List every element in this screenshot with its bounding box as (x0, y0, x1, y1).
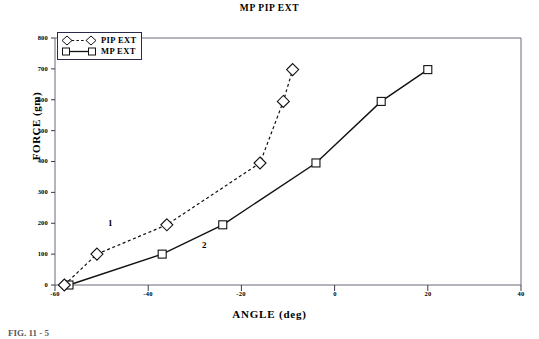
y-axis-ticks (51, 38, 55, 285)
x-axis-ticks (55, 285, 521, 291)
legend-item-mp-ext: MP EXT (61, 46, 137, 57)
data-point-mp (312, 159, 320, 167)
data-point-pip (254, 157, 266, 169)
curve-annotation-1: 1 (108, 218, 113, 228)
series-pip-ext (58, 64, 298, 291)
x-tick-label--40: -40 (133, 290, 163, 297)
curve-annotation-2: 2 (202, 240, 207, 250)
data-point-pip (287, 64, 299, 76)
data-point-pip (161, 219, 173, 231)
data-point-mp (424, 66, 432, 74)
y-tick-label-200: 200 (22, 219, 48, 226)
y-tick-label-800: 800 (22, 34, 48, 41)
legend-label-mp-ext: MP EXT (99, 47, 136, 56)
data-point-mp (158, 250, 166, 258)
legend-symbol-mp (61, 46, 99, 57)
data-point-mp (219, 221, 227, 229)
figure-container: MP PIP EXT FORCE (gm) ANGLE (deg) 800 70… (0, 0, 539, 339)
legend-label-pip-ext: PIP EXT (99, 36, 137, 45)
legend-symbol-pip (61, 35, 99, 46)
y-tick-label-500: 500 (22, 127, 48, 134)
x-tick-label--60: -60 (40, 290, 70, 297)
legend-item-pip-ext: PIP EXT (61, 35, 137, 46)
y-tick-label-700: 700 (22, 65, 48, 72)
plot-canvas (55, 38, 521, 285)
x-axis-title: ANGLE (deg) (0, 308, 539, 320)
plot-area: 1 2 (55, 38, 521, 285)
y-tick-label-0: 0 (22, 281, 48, 288)
data-point-pip (277, 95, 289, 107)
data-point-mp (377, 97, 385, 105)
y-tick-label-300: 300 (22, 188, 48, 195)
x-tick-label--20: -20 (226, 290, 256, 297)
x-tick-label-20: 20 (413, 290, 443, 297)
x-tick-label-0: 0 (320, 290, 350, 297)
y-tick-label-400: 400 (22, 157, 48, 164)
axis-frame (55, 38, 521, 285)
chart-title: MP PIP EXT (0, 3, 539, 13)
x-tick-label-40: 40 (506, 290, 536, 297)
y-tick-label-600: 600 (22, 96, 48, 103)
chart-legend: PIP EXT MP EXT (57, 32, 142, 60)
data-point-pip (91, 248, 103, 260)
figure-caption-fragment: FIG. 11 - 5 (8, 328, 49, 337)
series-mp-ext (65, 66, 432, 289)
y-tick-label-100: 100 (22, 250, 48, 257)
